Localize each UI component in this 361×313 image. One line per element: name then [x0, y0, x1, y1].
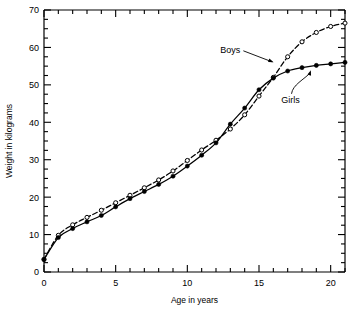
data-point-girls [185, 164, 189, 168]
data-point-boys [185, 158, 189, 162]
data-point-boys [85, 215, 89, 219]
data-point-girls [56, 236, 60, 240]
data-point-girls [228, 122, 232, 126]
data-point-boys [257, 94, 261, 98]
data-point-girls [271, 76, 275, 80]
y-tick-label: 10 [29, 230, 39, 240]
data-point-boys [99, 208, 103, 212]
data-point-boys [157, 178, 161, 182]
data-point-boys [228, 127, 232, 131]
data-point-girls [85, 220, 89, 224]
y-tick-label: 70 [29, 5, 39, 15]
y-tick-label: 50 [29, 80, 39, 90]
data-point-girls [314, 63, 318, 67]
x-tick-label: 0 [41, 278, 46, 288]
data-point-boys [114, 201, 118, 205]
x-tick-label: 15 [254, 278, 264, 288]
chart-background [0, 0, 361, 313]
data-point-boys [300, 40, 304, 44]
y-tick-label: 0 [34, 267, 39, 277]
x-tick-label: 10 [182, 278, 192, 288]
data-point-girls [343, 60, 347, 64]
data-point-girls [286, 69, 290, 73]
data-point-girls [142, 189, 146, 193]
y-tick-label: 30 [29, 155, 39, 165]
y-tick-label: 40 [29, 118, 39, 128]
x-tick-label: 20 [326, 278, 336, 288]
x-tick-label: 5 [113, 278, 118, 288]
data-point-boys [243, 113, 247, 117]
boys-series-label: Boys [220, 45, 241, 55]
growth-chart-svg: 01020304050607005101520 BoysGirls Age in… [0, 0, 361, 313]
y-tick-label: 60 [29, 43, 39, 53]
data-point-boys [171, 169, 175, 173]
data-point-girls [200, 153, 204, 157]
data-point-girls [329, 62, 333, 66]
data-point-girls [114, 205, 118, 209]
girls-series-label: Girls [281, 95, 300, 105]
data-point-boys [314, 30, 318, 34]
data-point-girls [42, 258, 46, 262]
data-point-girls [257, 88, 261, 92]
y-axis-title: Weight in kilograms [4, 104, 14, 178]
data-point-girls [214, 141, 218, 145]
data-point-girls [157, 182, 161, 186]
x-axis-title: Age in years [171, 295, 218, 305]
data-point-boys [286, 55, 290, 59]
data-point-boys [329, 24, 333, 28]
data-point-girls [71, 227, 75, 231]
data-point-girls [171, 174, 175, 178]
data-point-girls [128, 197, 132, 201]
data-point-girls [300, 66, 304, 70]
data-point-girls [99, 213, 103, 217]
data-point-girls [243, 106, 247, 110]
chart-figure: 01020304050607005101520 BoysGirls Age in… [0, 0, 361, 313]
data-point-boys [343, 21, 347, 25]
y-tick-label: 20 [29, 193, 39, 203]
data-point-boys [200, 148, 204, 152]
